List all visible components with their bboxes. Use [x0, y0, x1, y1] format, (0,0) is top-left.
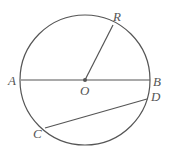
label-o: O: [80, 84, 89, 97]
label-r: R: [113, 10, 121, 23]
chord-cd: [45, 99, 147, 128]
label-c: C: [33, 127, 42, 140]
label-b: B: [153, 75, 161, 88]
radius-or: [85, 25, 113, 80]
label-d: D: [151, 90, 160, 103]
diagram-canvas: [0, 0, 171, 150]
label-a: A: [8, 74, 16, 87]
center-point: [83, 78, 87, 82]
circle-diagram: A B O R C D: [0, 0, 171, 150]
